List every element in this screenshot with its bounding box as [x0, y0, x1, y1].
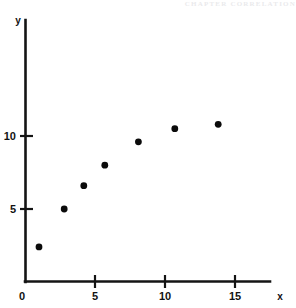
y-axis-label: y — [15, 15, 21, 26]
data-point — [215, 121, 222, 128]
y-tick-label-10: 10 — [4, 130, 16, 142]
data-points-group — [36, 121, 222, 250]
axes-group — [25, 20, 270, 282]
x-tick-label-10: 10 — [159, 290, 171, 302]
data-point — [101, 162, 108, 169]
x-tick-label-15: 15 — [229, 290, 241, 302]
scatter-plot-figure: CHAPTER CORRELATION 0 5 10 15 5 10 y — [0, 0, 296, 308]
data-point — [36, 244, 43, 251]
data-point — [171, 125, 178, 132]
y-tick-label-5: 5 — [10, 203, 16, 215]
data-point — [80, 182, 87, 189]
plot-canvas: 0 5 10 15 5 10 y x — [0, 0, 296, 308]
x-tick-label-5: 5 — [92, 290, 98, 302]
x-tick-label-0: 0 — [19, 290, 25, 302]
axis-titles: y x — [15, 15, 283, 302]
data-point — [61, 206, 68, 213]
x-axis-label: x — [277, 291, 283, 302]
data-point — [135, 138, 142, 145]
y-axis-tick-labels: 5 10 — [4, 130, 16, 215]
x-axis-tick-labels: 0 5 10 15 — [19, 290, 241, 302]
